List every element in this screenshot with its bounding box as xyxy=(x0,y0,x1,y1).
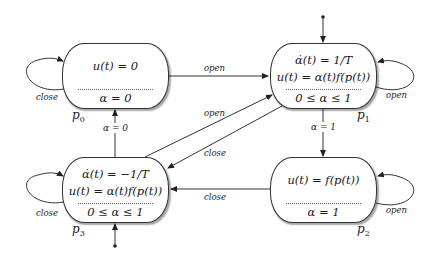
initial-arrow-p3 xyxy=(113,224,117,248)
p2-separator xyxy=(286,203,361,204)
p3-separator xyxy=(78,203,153,204)
self-loop-p1 xyxy=(376,61,414,90)
guard-p1-p2: α = 1 xyxy=(310,122,337,132)
p0-flow-0: u(t) = 0 xyxy=(63,58,168,75)
p1-invariant: 0 ≤ α ≤ 1 xyxy=(271,91,376,105)
self-loop-p2 xyxy=(376,175,414,205)
p2-invariant: α = 1 xyxy=(271,205,376,219)
state-p2[interactable]: u(t) = f(p(t)) α = 1 xyxy=(270,157,377,223)
p0-separator xyxy=(78,89,153,90)
p0-invariant: α = 0 xyxy=(63,91,168,105)
label-p1-self: open xyxy=(386,90,407,100)
label-p0-self: close xyxy=(36,92,58,102)
state-p0[interactable]: u(t) = 0 α = 0 xyxy=(62,43,169,109)
p3-flow-0: α̇(t) = −1/T xyxy=(63,166,168,183)
label-p2-p3: close xyxy=(204,192,226,202)
self-loop-p0 xyxy=(27,58,64,90)
p3-flow-1: u(t) = α(t)f(p(t)) xyxy=(63,183,168,200)
guard-p3-p0: α = 0 xyxy=(102,123,129,133)
p3-invariant: 0 ≤ α ≤ 1 xyxy=(63,205,168,219)
self-loop-p3 xyxy=(27,173,64,203)
p2-flow-0: u(t) = f(p(t)) xyxy=(271,172,376,189)
initial-arrow-p1 xyxy=(321,15,325,42)
p1-flow-0: α̇(t) = 1/T xyxy=(271,52,376,69)
label-p3-self: close xyxy=(36,208,58,218)
p2-label: p2 xyxy=(357,222,370,238)
label-p0-p1: open xyxy=(204,63,225,73)
p1-label: p1 xyxy=(357,108,370,124)
p1-separator xyxy=(286,89,361,90)
label-p2-self: open xyxy=(386,205,407,215)
state-p1[interactable]: α̇(t) = 1/T u(t) = α(t)f(p(t)) 0 ≤ α ≤ 1 xyxy=(270,43,377,109)
label-p3-p1: open xyxy=(204,108,225,118)
p3-label: p3 xyxy=(72,222,85,238)
p1-flow-1: u(t) = α(t)f(p(t)) xyxy=(271,69,376,86)
p0-label: p0 xyxy=(72,108,85,124)
label-p1-p3: close xyxy=(204,148,226,158)
state-p3[interactable]: α̇(t) = −1/T u(t) = α(t)f(p(t)) 0 ≤ α ≤ … xyxy=(62,157,169,223)
